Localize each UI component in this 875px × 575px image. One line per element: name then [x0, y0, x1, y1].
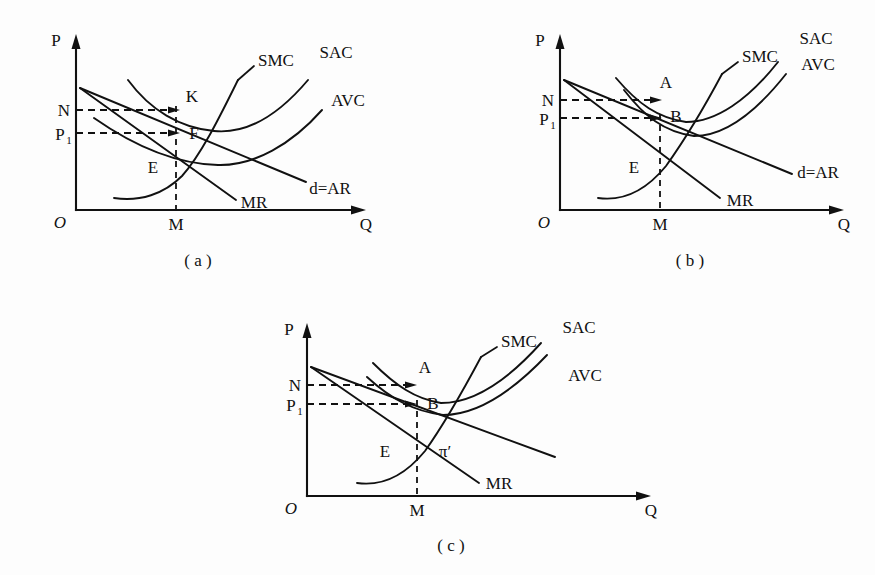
point-label-b-c: B — [427, 394, 438, 413]
curve-smc-leader-b — [722, 62, 738, 74]
point-label-f-a: F — [189, 124, 198, 143]
x-axis-label-c: Q — [645, 501, 657, 520]
panel-a: P Q O N P 1 M K F E SMC SAC AVC MR d=AR … — [30, 18, 430, 293]
point-label-a-c: A — [419, 358, 432, 377]
curve-sac-c — [373, 343, 541, 403]
curve-sac-b — [616, 62, 778, 122]
panel-c: P Q O N P 1 M A B E π′ SMC SAC AVC MR ( … — [255, 305, 675, 567]
curve-label-avc-c: AVC — [568, 366, 602, 385]
curve-label-mr-a: MR — [241, 193, 268, 212]
y-axis-arrowhead-a — [72, 34, 81, 49]
price-tick-p1-subscript-c: 1 — [297, 405, 303, 417]
point-label-e-b: E — [629, 158, 639, 177]
curve-label-mr-b: MR — [727, 191, 754, 210]
price-tick-p1-b: P — [539, 110, 548, 129]
panel-caption-b: ( b ) — [676, 251, 704, 270]
y-axis-arrowhead-c — [303, 323, 312, 338]
curve-label-d-ar-b: d=AR — [797, 163, 839, 182]
panel-caption-a: ( a ) — [184, 251, 211, 270]
quantity-tick-m-a: M — [168, 215, 183, 234]
point-label-b-b: B — [670, 107, 681, 126]
panel-c-chart: P Q O N P 1 M A B E π′ SMC SAC AVC MR ( … — [255, 305, 675, 567]
price-tick-n-a: N — [58, 101, 70, 120]
price-tick-n-c: N — [289, 376, 301, 395]
point-label-a-b: A — [660, 73, 673, 92]
price-tick-p1-subscript-b: 1 — [550, 119, 556, 131]
y-axis-label-c: P — [284, 320, 293, 339]
origin-label-c: O — [285, 499, 297, 518]
panel-caption-c: ( c ) — [437, 536, 464, 555]
point-label-pi-prime-c: π′ — [439, 442, 451, 461]
x-axis-arrowhead-a — [351, 206, 366, 215]
price-tick-p1-a: P — [55, 125, 64, 144]
curve-label-mr-c: MR — [486, 474, 513, 493]
y-axis-arrowhead-b — [556, 34, 565, 49]
curve-label-smc-c: SMC — [501, 332, 537, 351]
curve-smc-leader-a — [238, 66, 254, 80]
x-axis-label-b: Q — [838, 215, 850, 234]
point-label-k-a: K — [186, 87, 199, 106]
curve-label-avc-b: AVC — [801, 55, 835, 74]
origin-label-b: O — [538, 213, 550, 232]
origin-label-a: O — [54, 213, 66, 232]
figure-root: P Q O N P 1 M K F E SMC SAC AVC MR d=AR … — [0, 0, 875, 575]
y-axis-label-b: P — [535, 31, 544, 50]
x-axis-label-a: Q — [360, 215, 372, 234]
y-axis-label-a: P — [51, 31, 60, 50]
curve-sac-a — [128, 80, 308, 131]
curve-label-avc-a: AVC — [331, 91, 365, 110]
price-tick-n-b: N — [542, 91, 554, 110]
price-tick-p1-subscript-a: 1 — [66, 134, 72, 146]
quantity-tick-m-b: M — [652, 215, 667, 234]
panel-b: P Q O N P 1 M A B E SMC SAC AVC MR d=AR … — [448, 18, 860, 293]
panel-a-chart: P Q O N P 1 M K F E SMC SAC AVC MR d=AR … — [30, 18, 430, 293]
curve-label-smc-b: SMC — [742, 47, 778, 66]
x-axis-arrowhead-c — [636, 492, 651, 501]
price-line-p1-arrowhead-a — [168, 130, 180, 137]
curve-mr-b — [564, 80, 720, 198]
curve-label-sac-b: SAC — [799, 29, 832, 48]
x-axis-arrowhead-b — [829, 206, 844, 215]
price-line-n-arrowhead-a — [168, 107, 180, 114]
panel-b-chart: P Q O N P 1 M A B E SMC SAC AVC MR d=AR … — [448, 18, 860, 293]
price-tick-p1-c: P — [286, 396, 295, 415]
curve-label-smc-a: SMC — [258, 51, 294, 70]
curve-label-d-ar-a: d=AR — [309, 179, 351, 198]
curve-smc-leader-c — [481, 347, 497, 357]
point-label-e-a: E — [148, 158, 158, 177]
point-label-e-c: E — [380, 442, 390, 461]
curve-label-sac-c: SAC — [562, 318, 595, 337]
price-line-n-arrowhead-b — [650, 97, 662, 104]
curve-label-sac-a: SAC — [319, 43, 352, 62]
price-line-n-arrowhead-c — [405, 382, 417, 389]
curve-d-ar-b — [564, 80, 792, 174]
quantity-tick-m-c: M — [409, 501, 424, 520]
